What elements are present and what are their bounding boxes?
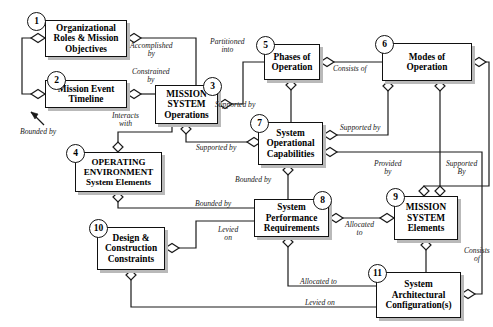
edge-label-constrained-by: Constrained by	[132, 68, 170, 84]
edge-label-consists-of-9-11: Consists of	[464, 247, 490, 263]
node-box-9[interactable]: MISSION SYSTEM Elements	[394, 196, 458, 240]
node-10-text: Design & Construction Constraints	[98, 233, 164, 264]
node-box-4[interactable]: OPERATING ENVIRONMENT System Elements	[75, 152, 162, 192]
edge-label-supported-by-3-7: Supported by	[196, 144, 236, 152]
edge-label-levied-on-10: Levied on	[218, 226, 238, 242]
node-box-11[interactable]: System Architectural Configuration(s)	[376, 272, 461, 318]
edge-label-supported-by-right: Supported By	[446, 160, 477, 176]
node-badge-10: 10	[89, 219, 108, 238]
edge-4-8	[118, 192, 254, 208]
edge-label-consists-of-5-6: Consists of	[333, 65, 367, 73]
edge-10-11	[131, 270, 376, 307]
node-badge-8: 8	[313, 191, 332, 210]
node-badge-5: 5	[256, 36, 275, 55]
edge-label-interacts-with: Interacts with	[112, 112, 139, 128]
node-9-text: MISSION SYSTEM Elements	[395, 202, 457, 233]
node-5-text: Phases of Operation	[265, 52, 319, 73]
node-4-text: OPERATING ENVIRONMENT System Elements	[76, 157, 161, 187]
edge-label-supported-by-7-6: Supported by	[340, 124, 380, 132]
edge-label-bounded-by-7-8: Bounded by	[235, 176, 271, 184]
edge-3-7a	[186, 124, 247, 142]
edge-label-supported-by-5-7: Supported by	[215, 101, 255, 109]
edge-label-provided-by: Provided by	[374, 160, 402, 176]
node-box-7[interactable]: System Operational Capabilities	[258, 122, 323, 165]
node-badge-2: 2	[47, 71, 66, 90]
edge-3-5	[218, 62, 264, 104]
node-badge-4: 4	[66, 144, 85, 163]
node-badge-9: 9	[386, 188, 405, 207]
edge-label-levied-on-10-11: Levied on	[305, 299, 335, 307]
node-box-1[interactable]: Organizational Roles & Mission Objective…	[45, 20, 127, 57]
node-badge-3: 3	[203, 77, 222, 96]
node-box-10[interactable]: Design & Construction Constraints	[97, 227, 165, 270]
node-11-text: System Architectural Configuration(s)	[377, 279, 460, 310]
edge-label-bounded-by-4-8: Bounded by	[195, 200, 231, 208]
node-badge-6: 6	[375, 35, 394, 54]
node-badge-11: 11	[368, 264, 387, 283]
node-6-text: Modes of Operation	[383, 52, 471, 73]
edge-label-allocated-to-8-9: Allocated to	[345, 221, 374, 237]
diagram-canvas: Organizational Roles & Mission Objective…	[0, 0, 493, 327]
node-badge-7: 7	[250, 114, 269, 133]
node-badge-1: 1	[27, 12, 46, 31]
edge-label-partitioned-into: Partitioned into	[210, 38, 245, 54]
node-1-text: Organizational Roles & Mission Objective…	[46, 23, 126, 54]
edge-1-2	[22, 38, 45, 94]
edge-label-allocated-to-8-11: Allocated to	[300, 278, 337, 286]
edge-10-8	[165, 221, 254, 248]
edge-label-bounded-by-left: Bounded by	[20, 128, 56, 136]
edge-label-accomplished-by: Accomplished by	[130, 42, 173, 58]
node-box-6[interactable]: Modes of Operation	[382, 43, 472, 81]
node-7-text: System Operational Capabilities	[259, 128, 322, 159]
